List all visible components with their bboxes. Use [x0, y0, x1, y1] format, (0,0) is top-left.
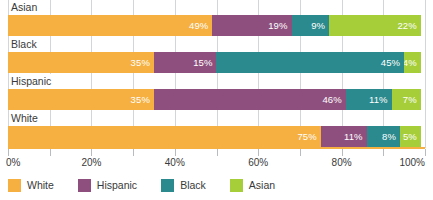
legend-swatch-icon	[161, 179, 174, 192]
bar-segment-hispanic: 46%	[154, 89, 346, 110]
bar-segment-white: 35%	[8, 52, 154, 73]
segment-value-label: 35%	[131, 94, 154, 105]
x-tick-label-60: 60%	[248, 157, 268, 168]
x-tick-label-0: 0%	[6, 157, 20, 168]
segment-value-label: 22%	[397, 20, 420, 31]
x-tick-90	[383, 149, 384, 156]
x-tick-80	[342, 149, 343, 156]
x-tick-label-40: 40%	[165, 157, 185, 168]
segment-value-label: 15%	[193, 57, 216, 68]
bar-row: Black35%15%45%4%	[8, 37, 425, 74]
row-label-black: Black	[11, 37, 40, 52]
x-axis: 0%20%40%60%80%100%	[8, 147, 425, 173]
legend-swatch-icon	[230, 179, 243, 192]
segment-value-label: 7%	[403, 94, 421, 105]
segment-value-label: 8%	[382, 131, 400, 142]
x-tick-30	[133, 149, 134, 156]
x-tick-label-100: 100%	[399, 157, 425, 168]
bar-segment-black: 11%	[346, 89, 392, 110]
x-tick-10	[50, 149, 51, 156]
x-tick-0	[8, 149, 9, 156]
segment-value-label: 11%	[369, 94, 392, 105]
segment-value-label: 4%	[404, 57, 421, 68]
legend-label: Asian	[249, 179, 275, 191]
bar-row: Hispanic35%46%11%7%	[8, 74, 425, 111]
bar-segment-black: 45%	[216, 52, 404, 73]
x-tick-40	[175, 149, 176, 156]
stacked-bar: 35%15%45%4%	[8, 52, 425, 73]
x-tick-label-20: 20%	[81, 157, 101, 168]
bar-segment-hispanic: 11%	[321, 126, 367, 147]
row-label-white: White	[11, 111, 41, 126]
bar-segment-asian: 4%	[404, 52, 421, 73]
legend-label: Black	[180, 179, 206, 191]
legend-swatch-icon	[8, 179, 21, 192]
legend-item-hispanic[interactable]: Hispanic	[78, 179, 137, 192]
chart-legend: WhiteHispanicBlackAsian	[8, 176, 299, 194]
stacked-bar: 49%19%9%22%	[8, 15, 425, 36]
bar-segment-white: 75%	[8, 126, 321, 147]
bar-segment-hispanic: 15%	[154, 52, 217, 73]
bar-segment-white: 35%	[8, 89, 154, 110]
bar-segment-black: 8%	[367, 126, 400, 147]
bar-rows: Asian49%19%9%22%Black35%15%45%4%Hispanic…	[8, 0, 425, 148]
bar-segment-hispanic: 19%	[212, 15, 291, 36]
gridline-100	[425, 0, 426, 148]
bar-segment-white: 49%	[8, 15, 212, 36]
x-tick-50	[217, 149, 218, 156]
bar-segment-asian: 7%	[392, 89, 421, 110]
legend-label: White	[27, 179, 54, 191]
plot-area: Asian49%19%9%22%Black35%15%45%4%Hispanic…	[8, 0, 425, 148]
legend-label: Hispanic	[97, 179, 137, 191]
segment-value-label: 35%	[131, 57, 154, 68]
x-tick-60	[258, 149, 259, 156]
legend-item-white[interactable]: White	[8, 179, 54, 192]
segment-value-label: 75%	[297, 131, 320, 142]
segment-value-label: 19%	[268, 20, 291, 31]
row-label-asian: Asian	[11, 0, 40, 15]
bar-row: White75%11%8%5%	[8, 111, 425, 148]
segment-value-label: 5%	[403, 131, 421, 142]
bar-segment-black: 9%	[292, 15, 330, 36]
legend-item-black[interactable]: Black	[161, 179, 206, 192]
bar-segment-asian: 22%	[329, 15, 421, 36]
segment-value-label: 11%	[344, 131, 367, 142]
row-label-hispanic: Hispanic	[11, 74, 54, 89]
stacked-bar: 35%46%11%7%	[8, 89, 425, 110]
x-tick-20	[91, 149, 92, 156]
x-tick-70	[300, 149, 301, 156]
segment-value-label: 46%	[322, 94, 345, 105]
bar-segment-asian: 5%	[400, 126, 421, 147]
legend-item-asian[interactable]: Asian	[230, 179, 275, 192]
x-tick-label-80: 80%	[332, 157, 352, 168]
x-tick-100	[425, 149, 426, 156]
stacked-bar: 75%11%8%5%	[8, 126, 425, 147]
legend-swatch-icon	[78, 179, 91, 192]
segment-value-label: 45%	[381, 57, 404, 68]
bar-row: Asian49%19%9%22%	[8, 0, 425, 37]
stacked-bar-chart: Asian49%19%9%22%Black35%15%45%4%Hispanic…	[0, 0, 433, 200]
segment-value-label: 9%	[311, 20, 329, 31]
segment-value-label: 49%	[189, 20, 212, 31]
